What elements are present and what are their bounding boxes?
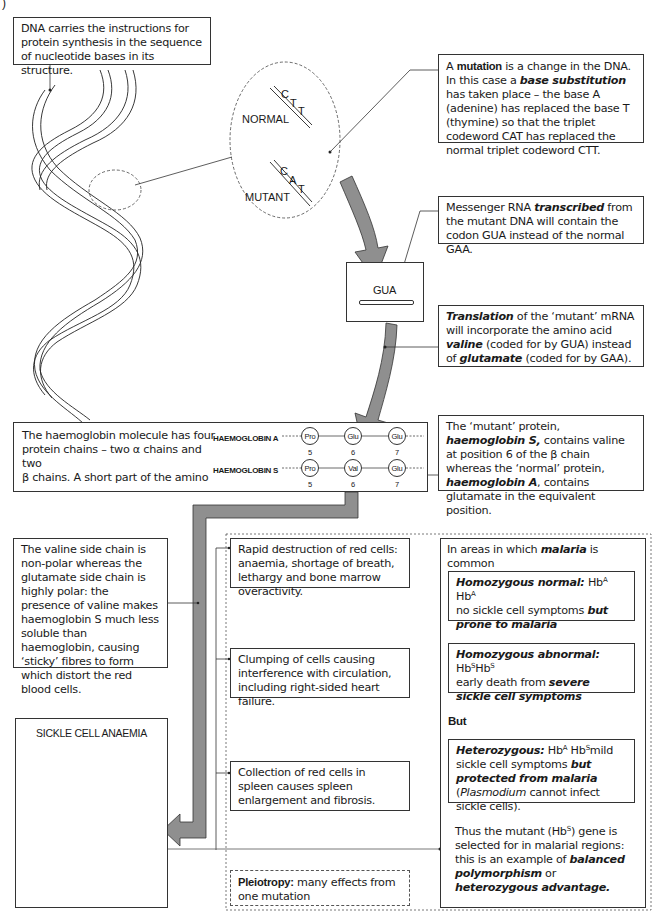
- residue-a-6: Glu: [344, 427, 362, 445]
- residue-a-7: Glu: [388, 427, 406, 445]
- homozygous-abnormal-term: Homozygous abnormal:: [456, 648, 600, 661]
- allele-sup: A: [471, 590, 476, 598]
- helix-zoom-region: [89, 170, 141, 210]
- codon-box: GUA: [346, 262, 424, 322]
- dna-helix-icon: [32, 70, 143, 425]
- residue-s-5: Pro: [301, 459, 319, 477]
- sickle-cell-box: SICKLE CELL ANAEMIA: [15, 718, 168, 908]
- normal-label: NORMAL: [242, 113, 289, 125]
- homozygous-normal-text: no sickle cell symptoms: [456, 604, 587, 617]
- haemoglobin-box: The haemoglobin molecule has four protei…: [13, 422, 428, 492]
- mutant-label: MUTANT: [245, 191, 290, 203]
- valine-term: valine: [446, 338, 483, 351]
- heterozygous-box: Heterozygous: HbA HbSmild sickle cell sy…: [448, 739, 635, 803]
- allele-sup: S: [490, 662, 494, 670]
- mutant-base-1: C: [280, 165, 288, 177]
- effect-box-2: Clumping of cells causing interference w…: [230, 648, 410, 698]
- malaria-heading-pre: In areas in which: [447, 543, 541, 556]
- normal-base-1: C: [281, 88, 289, 100]
- position-s-6: 6: [344, 478, 362, 492]
- homozygous-normal-box: Homozygous normal: HbA HbA no sickle cel…: [448, 571, 635, 621]
- plasmodium-term: Plasmodium: [460, 786, 526, 799]
- but-label: But: [448, 714, 466, 728]
- normal-base-3: T: [298, 105, 305, 117]
- homozygous-abnormal-box: Homozygous abnormal: HbSHbS early death …: [448, 643, 635, 693]
- sickle-cell-title: SICKLE CELL ANAEMIA: [16, 726, 167, 740]
- effect-box-1: Rapid destruction of red cells: anaemia,…: [230, 538, 410, 588]
- allele-sup: A: [603, 576, 608, 584]
- conclusion-or: or: [542, 867, 556, 880]
- mutation-term: mutation: [457, 60, 502, 72]
- mrna-strand-icon: [359, 300, 414, 305]
- residue-a-5: Pro: [301, 427, 319, 445]
- genotype-hb: Hb: [585, 576, 603, 589]
- position-s-5: 5: [301, 478, 319, 492]
- mrna-text-pre: Messenger RNA: [446, 201, 534, 214]
- genotype-hb: Hb: [567, 744, 585, 757]
- genotype-hb: Hb: [544, 744, 562, 757]
- mutant-base-2: A: [289, 174, 296, 186]
- chain-lines: [14, 423, 429, 493]
- position-s-7: 7: [388, 478, 406, 492]
- translation-box: Translation of the ‘mutant’ mRNA will in…: [438, 305, 644, 367]
- residue-s-7: Glu: [388, 459, 406, 477]
- mutant-protein-text-pre: The ‘mutant’ protein,: [446, 420, 560, 433]
- homozygous-normal-term: Homozygous normal:: [456, 576, 585, 589]
- translation-text-3: (coded for by GAA).: [522, 352, 631, 365]
- position-a-7: 7: [388, 446, 406, 460]
- haemoglobin-s-term: haemoglobin S,: [446, 434, 540, 447]
- translation-term: Translation: [446, 310, 514, 323]
- conclusion-text-pre: Thus the mutant (Hb: [455, 825, 567, 838]
- genotype-hb: Hb: [475, 662, 490, 675]
- effect-text-3: Collection of red cells in spleen causes…: [238, 766, 375, 807]
- codon-label: GUA: [373, 283, 396, 297]
- position-a-6: 6: [344, 446, 362, 460]
- mutant-protein-box: The ‘mutant’ protein, haemoglobin S, con…: [438, 415, 644, 491]
- haemoglobin-a-term: haemoglobin A: [446, 476, 537, 489]
- malaria-panel: In areas in which malaria is common Homo…: [440, 538, 646, 908]
- pleiotropy-box: Pleiotropy: many effects from one mutati…: [230, 870, 410, 906]
- conclusion-box: Thus the mutant (HbS) gene is selected f…: [455, 825, 633, 895]
- malaria-term: malaria: [541, 543, 587, 556]
- mutation-box: A mutation is a change in the DNA. In th…: [438, 54, 644, 143]
- pleiotropy-term: Pleiotropy:: [238, 876, 294, 888]
- normal-base-2: T: [290, 97, 297, 109]
- transcribed-term: transcribed: [534, 201, 604, 214]
- glutamate-term: glutamate: [460, 352, 523, 365]
- valine-box: The valine side chain is non-polar where…: [13, 538, 168, 668]
- position-a-5: 5: [301, 446, 319, 460]
- genotype-hb: Hb: [456, 590, 471, 603]
- homozygous-abnormal-text: early death from: [456, 676, 549, 689]
- mrna-box: Messenger RNA transcribed from the mutan…: [438, 196, 644, 244]
- heterozygous-advantage-term: heterozygous advantage.: [455, 881, 610, 894]
- mutant-base-3: T: [298, 183, 305, 195]
- haemoglobin-s-label: HAEMOGLOBIN S: [213, 464, 278, 478]
- heterozygous-term: Heterozygous:: [456, 744, 544, 757]
- genotype-hb: Hb: [456, 662, 471, 675]
- base-substitution-term: base substitution: [520, 74, 626, 87]
- mutation-text-pre: A: [446, 60, 457, 73]
- effect-box-3: Collection of red cells in spleen causes…: [230, 761, 410, 811]
- malaria-heading: In areas in which malaria is common: [447, 543, 645, 571]
- residue-s-6: Val: [344, 459, 362, 477]
- dna-info-box: DNA carries the instructions for protein…: [13, 17, 211, 65]
